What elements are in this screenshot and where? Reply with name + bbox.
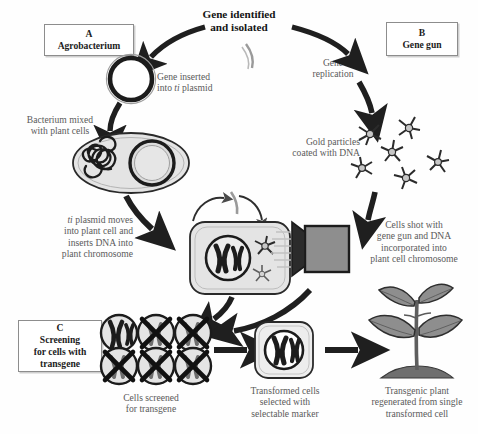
flow-arrow-title-to-plasmid (151, 27, 205, 57)
flow-arrow-plasmid-to-bacterium (110, 103, 120, 131)
gold-particle-icon (381, 140, 403, 161)
gold-particle-icon (394, 167, 417, 189)
gold-particle-icon (399, 117, 420, 139)
flow-arrow-plantcell-to-screening (214, 297, 232, 319)
screened-cell-icon (101, 315, 137, 351)
gene-transfer-curved-arrows (193, 192, 262, 221)
gold-particle-icon (359, 125, 381, 145)
screened-cells-grid (101, 315, 211, 384)
flow-arrow-bacterium-to-plantcell (126, 196, 152, 229)
transgenic-plant-icon (369, 284, 462, 378)
screened-cell-icon (138, 348, 174, 384)
diagram-canvas: Gene identified and isolated A Agrobacte… (0, 0, 478, 434)
ti-plasmid-ring-icon (106, 54, 155, 103)
screened-cell-icon (138, 315, 174, 351)
screened-cell-icon (175, 315, 211, 351)
gold-particle-icon (427, 150, 449, 172)
flow-arrow-replication-to-gold (359, 82, 372, 113)
plant-cell-icon (190, 222, 290, 294)
gold-particle-icon (351, 157, 372, 178)
diagram-artwork (0, 0, 478, 434)
screened-cell-icon (101, 348, 137, 384)
agrobacterium-cell-icon (73, 133, 189, 193)
flow-arrow-title-to-replication (292, 27, 348, 54)
flow-arrow-gold-to-gun (368, 192, 375, 220)
gene-fragment-icon (242, 44, 253, 69)
gold-particle-group (351, 117, 449, 189)
screened-cell-icon (175, 348, 211, 384)
transformed-cell-icon (255, 322, 313, 378)
